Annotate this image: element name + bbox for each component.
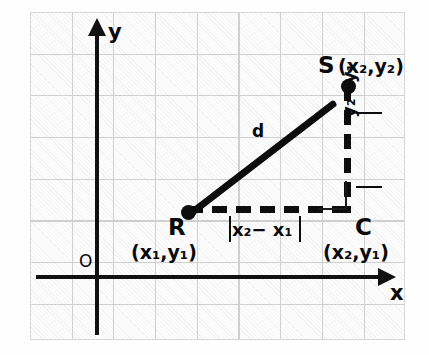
y-axis-line	[95, 30, 99, 335]
absolute-value-bar-right	[299, 216, 301, 242]
point-c-label: C	[355, 216, 372, 239]
absolute-value-bar-left	[229, 216, 231, 242]
x-axis-line	[36, 275, 381, 279]
absolute-value-bar-top	[356, 112, 382, 114]
point-c-coordinates: (x₂,y₁)	[323, 243, 389, 262]
y-axis-arrowhead-icon	[88, 18, 106, 36]
vertical-leg-label: y₂−y₁	[340, 64, 358, 118]
distance-label: d	[252, 123, 264, 140]
origin-label: O	[79, 253, 92, 270]
horizontal-leg-label: x₂− x₁	[232, 221, 292, 239]
distance-formula-diagram: x y O S (x₂,y₂) R (x₁,y₁) C (x₂,y₁) d x₂…	[0, 0, 429, 355]
point-r-label: R	[168, 216, 186, 239]
point-s-label: S	[318, 54, 335, 77]
absolute-value-bar-bottom	[356, 186, 382, 188]
x-axis-label: x	[390, 283, 404, 304]
point-r-coordinates: (x₁,y₁)	[131, 243, 197, 262]
right-angle-marker-icon	[318, 181, 347, 210]
y-axis-label: y	[108, 22, 122, 43]
